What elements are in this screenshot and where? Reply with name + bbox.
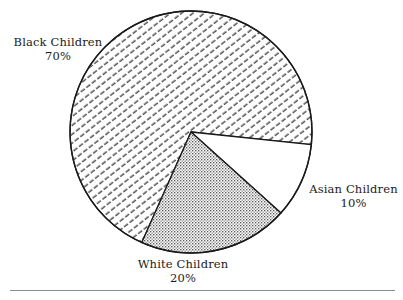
pie-label-asian-children-value: 10%	[304, 197, 403, 211]
pie-label-black-children-value: 70%	[2, 50, 114, 64]
pie-label-white-children: White Children 20%	[118, 258, 248, 285]
bottom-divider-rule	[10, 290, 395, 291]
pie-label-black-children: Black Children 70%	[2, 36, 114, 63]
pie-label-white-children-value: 20%	[118, 272, 248, 286]
pie-label-white-children-name: White Children	[118, 258, 248, 272]
pie-label-asian-children-name: Asian Children	[304, 183, 403, 197]
pie-label-black-children-name: Black Children	[2, 36, 114, 50]
pie-label-asian-children: Asian Children 10%	[304, 183, 403, 210]
pie-chart-figure: Black Children 70% Asian Children 10% Wh…	[0, 0, 403, 300]
